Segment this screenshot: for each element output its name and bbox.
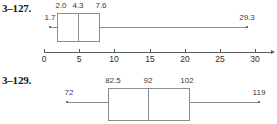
x-tick-label-25: 25	[215, 54, 224, 64]
max-marker-3-127	[246, 26, 248, 28]
right-whisker-3-127	[99, 27, 247, 28]
median-label-3-127: 4.3	[72, 1, 83, 10]
min-label-3-127: 1.7	[44, 13, 55, 22]
exercise-label-3-127: 3–127.	[2, 2, 31, 14]
x-tick-label-15: 15	[145, 54, 154, 64]
q1-label-3-127: 2.0	[55, 1, 66, 10]
median-line-3-127	[78, 13, 79, 42]
max-label-3-129: 119	[253, 88, 266, 97]
max-marker-3-129	[258, 101, 260, 103]
x-tick-5	[79, 49, 80, 53]
exercise-label-3-129: 3–129.	[2, 74, 31, 86]
min-marker-3-129	[66, 101, 68, 103]
box-3-129	[108, 88, 190, 121]
q3-label-3-127: 7.6	[95, 1, 106, 10]
right-whisker-3-129	[190, 102, 259, 103]
x-tick-label-30: 30	[250, 54, 259, 64]
x-tick-label-20: 20	[180, 54, 189, 64]
q3-label-3-129: 102	[180, 76, 193, 85]
left-whisker-3-129	[67, 102, 109, 103]
median-label-3-129: 92	[144, 76, 153, 85]
max-label-3-127: 29.3	[239, 13, 255, 22]
x-tick-15	[150, 49, 151, 53]
median-line-3-129	[148, 88, 149, 121]
x-tick-20	[185, 49, 186, 53]
x-tick-30	[255, 49, 256, 53]
figure-page: 3–127. 2.0 4.3 7.6 1.7 29.3 0 5 10 15 20…	[0, 0, 277, 124]
x-tick-10	[114, 49, 115, 53]
x-tick-label-5: 5	[77, 54, 82, 64]
min-marker-3-127	[49, 26, 51, 28]
x-tick-25	[220, 49, 221, 53]
x-tick-0	[44, 49, 45, 53]
min-label-3-129: 72	[65, 88, 74, 97]
x-axis-arrow-icon-3-127	[271, 50, 275, 54]
q1-label-3-129: 82.5	[105, 76, 121, 85]
x-tick-label-10: 10	[109, 54, 118, 64]
x-tick-label-0: 0	[42, 54, 47, 64]
